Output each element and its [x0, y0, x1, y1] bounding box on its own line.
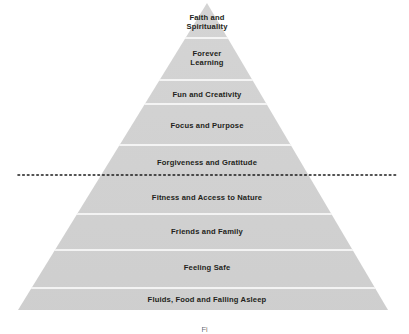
pyramid-graphic	[0, 0, 409, 334]
pyramid-diagram: Faith and SpiritualityForever LearningFu…	[0, 0, 409, 334]
figure-caption: Fi	[201, 325, 208, 334]
pyramid-fill	[0, 0, 409, 334]
pyramid-body	[0, 0, 409, 334]
